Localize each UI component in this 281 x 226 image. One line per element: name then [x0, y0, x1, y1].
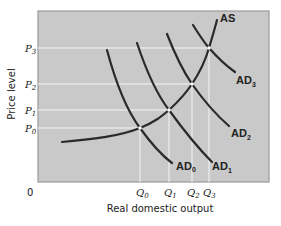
origin-label: 0: [27, 187, 33, 198]
y-tick-p1: P1: [24, 105, 36, 118]
y-tick-p0: P0: [24, 123, 37, 136]
equilibrium-point-0: [138, 126, 142, 130]
label-as: AS: [220, 12, 235, 24]
x-tick-q1: Q1: [164, 187, 177, 200]
equilibrium-point-2: [190, 82, 194, 86]
y-axis-title: Price level: [6, 68, 17, 119]
x-tick-q3: Q3: [203, 187, 216, 200]
x-tick-q2: Q2: [187, 187, 200, 200]
as-ad-chart: AS AD3 AD2 AD0 AD1 P3 P2 P1 P0 Q0 Q1 Q2 …: [0, 0, 281, 226]
x-axis-title: Real domestic output: [107, 203, 214, 214]
equilibrium-point-3: [207, 46, 211, 50]
y-tick-p2: P2: [24, 79, 37, 92]
y-tick-p3: P3: [24, 43, 37, 56]
x-tick-q0: Q0: [136, 187, 149, 200]
plot-area: [38, 11, 269, 182]
equilibrium-point-1: [167, 108, 171, 112]
